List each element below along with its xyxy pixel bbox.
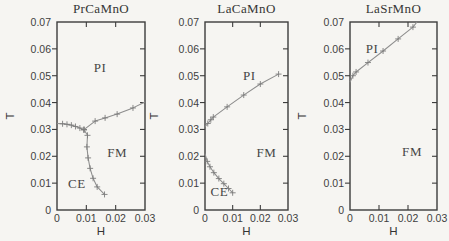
region-label-ce: CE [210, 184, 228, 200]
y-tick-label: 0.05 [17, 70, 51, 82]
y-tick-label: 0.03 [17, 123, 51, 135]
y-tick-label: 0.02 [310, 150, 344, 162]
y-tick-label: 0.01 [310, 177, 344, 189]
y-tick-label: 0.04 [17, 97, 51, 109]
x-tick-label: 0.03 [421, 212, 449, 224]
x-tick-label: 0.03 [129, 212, 161, 224]
y-axis-label-3: T [292, 106, 312, 126]
y-tick-label: 0.02 [17, 150, 51, 162]
y-tick-label: 0.01 [17, 177, 51, 189]
panel-title-1: PrCaMnO [73, 1, 129, 17]
region-label-fm: FM [107, 145, 127, 161]
panel-title-3: LaSrMnO [366, 1, 422, 17]
x-axis-label-2: H [242, 225, 250, 237]
x-tick-label: 0 [334, 212, 366, 224]
y-tick-label: 0.07 [17, 16, 51, 28]
figure-canvas: PrCaMnOTH00.010.020.030.040.050.060.0700… [0, 0, 449, 241]
y-axis-label-2: T [144, 106, 164, 126]
region-label-fm: FM [402, 144, 422, 160]
region-label-pi: PI [366, 41, 379, 57]
y-tick-label: 0.07 [310, 16, 344, 28]
y-tick-label: 0.05 [310, 70, 344, 82]
x-axis-label-3: H [389, 225, 397, 237]
region-label-ce: CE [68, 176, 86, 192]
x-axis-label-1: H [97, 225, 105, 237]
y-tick-label: 0.04 [165, 97, 199, 109]
y-tick-label: 0.01 [165, 177, 199, 189]
labels-layer: PrCaMnOTH00.010.020.030.040.050.060.0700… [0, 0, 449, 241]
y-tick-label: 0.03 [165, 123, 199, 135]
y-tick-label: 0.04 [310, 97, 344, 109]
y-tick-label: 0.06 [310, 43, 344, 55]
y-tick-label: 0.03 [310, 123, 344, 135]
y-tick-label: 0.05 [165, 70, 199, 82]
x-tick-label: 0.02 [392, 212, 424, 224]
region-label-pi: PI [94, 60, 107, 76]
x-tick-label: 0.01 [363, 212, 395, 224]
x-tick-label: 0.01 [70, 212, 102, 224]
region-label-fm: FM [256, 145, 276, 161]
x-tick-label: 0 [41, 212, 73, 224]
y-tick-label: 0.06 [17, 43, 51, 55]
x-tick-label: 0.02 [100, 212, 132, 224]
panel-title-2: LaCaMnO [217, 1, 275, 17]
y-tick-label: 0.06 [165, 43, 199, 55]
y-tick-label: 0.07 [165, 16, 199, 28]
y-tick-label: 0.02 [165, 150, 199, 162]
x-tick-label: 0.03 [272, 212, 304, 224]
region-label-pi: PI [243, 68, 256, 84]
